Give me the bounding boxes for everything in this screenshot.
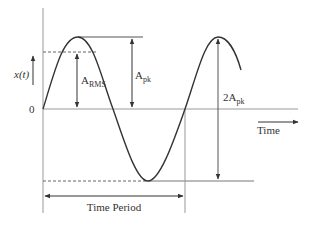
peak-label: Apk — [135, 69, 151, 84]
origin-label: 0 — [29, 103, 35, 115]
peak-to-peak-label: 2Apk — [223, 91, 244, 106]
time-label: Time — [257, 124, 280, 136]
y-axis-label: x(t) — [13, 68, 30, 81]
period-label: Time Period — [87, 201, 142, 213]
sine-wave-diagram: x(t) 0 ARMS Apk 2Apk Time Time Period — [0, 0, 314, 226]
